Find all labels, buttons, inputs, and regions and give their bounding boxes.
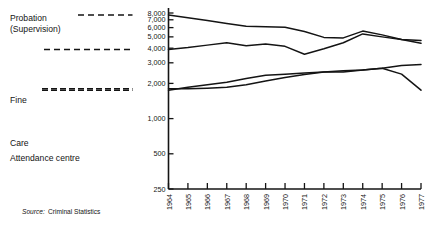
x-axis-tick-labels: 1964196519661967196819691970197119721973… bbox=[165, 194, 427, 210]
y-axis-tick-label: 2,000 bbox=[148, 79, 166, 88]
x-axis-tick-label: 1973 bbox=[339, 194, 348, 210]
series-line-probation-supervision bbox=[169, 15, 422, 43]
x-axis-tick-label: 1965 bbox=[184, 194, 193, 210]
y-axis-tick-label: 1,000 bbox=[148, 114, 166, 123]
legend-label-probation-line2: (Supervision) bbox=[10, 24, 61, 34]
x-axis-tick-label: 1970 bbox=[281, 194, 290, 210]
x-axis-tick-label: 1977 bbox=[417, 194, 426, 210]
x-axis-tick-label: 1976 bbox=[398, 194, 407, 210]
legend-label-care: Care bbox=[10, 138, 29, 148]
legend-group: Probation (Supervision) Fine Care Attend… bbox=[10, 13, 80, 163]
chart-series-group bbox=[169, 15, 422, 90]
y-axis-tick-label: 4,000 bbox=[148, 44, 166, 53]
x-axis-tick-label: 1969 bbox=[262, 194, 271, 210]
y-axis-tick-label: 5,000 bbox=[148, 32, 166, 41]
chart-svg: 8,0007,0006,0005,0004,0003,0002,0001,000… bbox=[0, 0, 431, 237]
x-axis-tick-label: 1974 bbox=[359, 194, 368, 210]
y-axis-tick-label: 250 bbox=[154, 185, 166, 194]
legend-label-probation-line1: Probation bbox=[10, 13, 47, 23]
source-text: Criminal Statistics bbox=[48, 208, 101, 215]
y-axis-tick-label: 500 bbox=[154, 149, 166, 158]
y-axis-tick-label: 3,000 bbox=[148, 58, 166, 67]
source-prefix: Source: bbox=[22, 208, 45, 215]
chart-figure: 8,0007,0006,0005,0004,0003,0002,0001,000… bbox=[0, 0, 431, 237]
x-axis-tick-label: 1964 bbox=[165, 194, 174, 210]
x-axis-tick-label: 1968 bbox=[242, 194, 251, 210]
x-axis-tick-label: 1971 bbox=[300, 194, 309, 210]
legend-label-fine: Fine bbox=[10, 95, 27, 105]
x-axis-tick-label: 1967 bbox=[223, 194, 232, 210]
series-line-fine bbox=[169, 34, 422, 54]
x-axis-ticks bbox=[169, 183, 422, 189]
x-axis-tick-label: 1972 bbox=[320, 194, 329, 210]
x-axis-tick-label: 1975 bbox=[378, 194, 387, 210]
y-axis-tick-labels: 8,0007,0006,0005,0004,0003,0002,0001,000… bbox=[148, 9, 166, 194]
series-line-attendance-centre bbox=[169, 68, 422, 90]
source-note: Source: Criminal Statistics bbox=[22, 208, 101, 215]
y-axis-tick-label: 6,000 bbox=[148, 23, 166, 32]
x-axis-tick-label: 1966 bbox=[203, 194, 212, 210]
legend-label-attendance-centre: Attendance centre bbox=[10, 153, 80, 163]
